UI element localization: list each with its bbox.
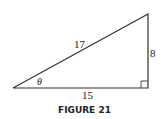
right-angle-marker <box>141 81 148 88</box>
right-triangle-diagram: 17 8 θ 15 FIGURE 21 <box>0 0 161 119</box>
adjacent-label: 15 <box>82 89 94 101</box>
angle-label: θ <box>37 76 42 87</box>
opposite-label: 8 <box>150 47 156 59</box>
hypotenuse-label: 17 <box>74 38 86 50</box>
figure-caption: FIGURE 21 <box>58 105 111 115</box>
triangle <box>13 14 148 88</box>
